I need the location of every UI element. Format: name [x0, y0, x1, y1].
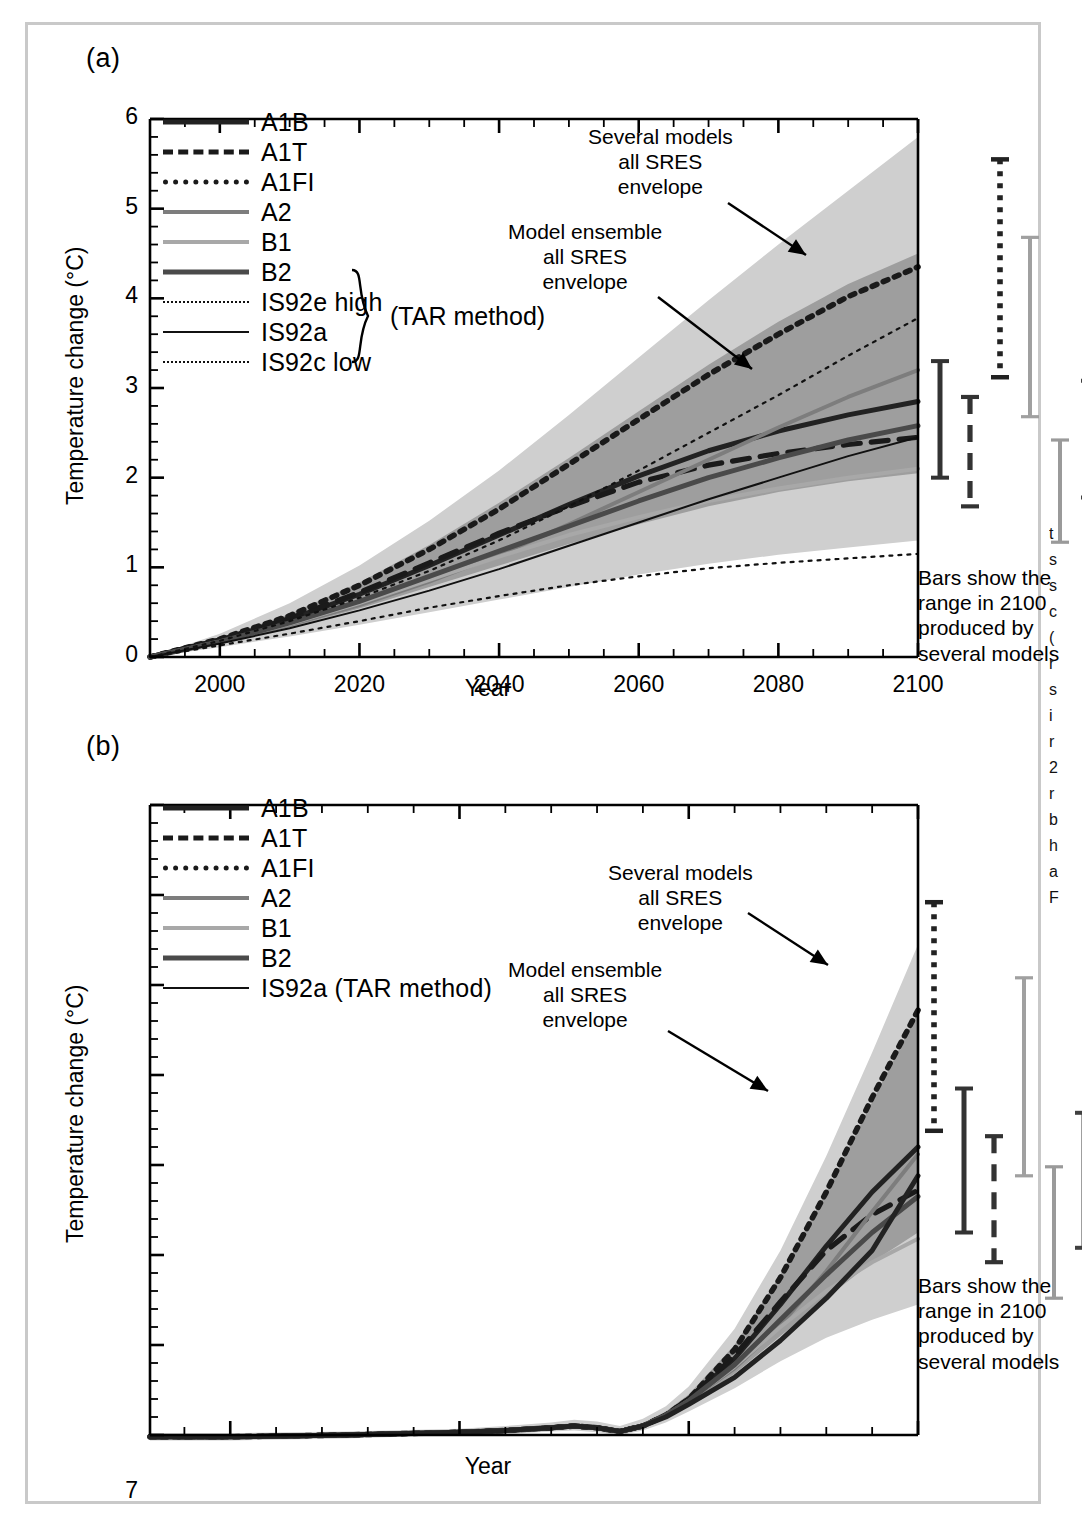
panel-b-annotation-model-ensemble: Model ensembleall SRESenvelope — [508, 958, 662, 1032]
legend-label: A1B — [261, 794, 309, 823]
bars-caption-line: produced by — [918, 615, 1059, 640]
side-text-line: t — [1049, 518, 1079, 544]
side-text-line — [1049, 492, 1079, 518]
annotation-line: all SRES — [508, 983, 662, 1008]
annotation-line: envelope — [588, 175, 733, 200]
legend-key-a1b — [163, 113, 249, 131]
x-tick-label: 2000 — [178, 671, 262, 698]
legend-key-b2 — [163, 263, 249, 281]
legend-key-b1 — [163, 919, 249, 937]
annotation-line: envelope — [508, 270, 662, 295]
panel-a-annotation-several-models: Several modelsall SRESenvelope — [588, 125, 733, 199]
x-tick-label: 2040 — [457, 671, 541, 698]
side-text-line: F — [1049, 882, 1079, 908]
panel-b-tag: (b) — [86, 731, 121, 762]
panel-a-legend-item: A1B — [163, 107, 383, 137]
side-text-line: s — [1049, 570, 1079, 596]
side-text-line: i — [1049, 700, 1079, 726]
bars-caption-line: range in 2100 — [918, 1298, 1059, 1323]
legend-label: IS92a (TAR method) — [261, 974, 492, 1003]
legend-key-a1fi — [163, 173, 249, 191]
panel-a-legend-item: A1FI — [163, 167, 383, 197]
side-text-line: a — [1049, 856, 1079, 882]
bars-caption-line: several models — [918, 641, 1059, 666]
legend-label: B2 — [261, 258, 292, 287]
side-text-line: r — [1049, 778, 1079, 804]
annotation-line: Several models — [608, 861, 753, 886]
bars-caption-line: Bars show the — [918, 565, 1059, 590]
annotation-line: envelope — [608, 911, 753, 936]
x-tick-label: 2060 — [597, 671, 681, 698]
panel-a-legend-item: B1 — [163, 227, 383, 257]
bars-caption-line: Bars show the — [918, 1273, 1059, 1298]
legend-label: A1B — [261, 108, 309, 137]
annotation-line: Model ensemble — [508, 958, 662, 983]
legend-label: B1 — [261, 914, 292, 943]
y-tick-label: 2 — [98, 462, 138, 489]
bars-caption-line: produced by — [918, 1323, 1059, 1348]
panel-a-tag: (a) — [86, 43, 121, 74]
side-text-line: ( — [1049, 622, 1079, 648]
side-text-line: s — [1049, 674, 1079, 700]
panel-b-legend-item: A1B — [163, 793, 492, 823]
legend-key-is92a — [163, 323, 249, 341]
y-tick-label: 0 — [98, 641, 138, 668]
panel-b-y-axis-label: Temperature change (°C) — [62, 985, 89, 1243]
x-tick-label: 2080 — [736, 671, 820, 698]
annotation-line: envelope — [508, 1008, 662, 1033]
panel-a-legend-item: A1T — [163, 137, 383, 167]
legend-key-a2 — [163, 889, 249, 907]
panel-b-x-axis-label: Year — [408, 1453, 568, 1480]
annotation-arrow-head — [810, 949, 828, 965]
annotation-line: all SRES — [588, 150, 733, 175]
annotation-arrow-line — [668, 1031, 768, 1091]
legend-label: A1T — [261, 824, 307, 853]
brace-icon — [350, 268, 384, 364]
panel-b-legend: A1BA1TA1FIA2B1B2IS92a (TAR method) — [163, 793, 492, 1003]
panel-a: (a) Temperature change (°C) Year A1BA1TA… — [28, 25, 1038, 725]
panel-b: (b) Temperature change (°C) Year A1BA1TA… — [28, 713, 1038, 1503]
panel-b-legend-item: A1FI — [163, 853, 492, 883]
legend-label: B1 — [261, 228, 292, 257]
side-text-line: h — [1049, 830, 1079, 856]
legend-label: A1FI — [261, 854, 315, 883]
y-tick-label: 6 — [98, 103, 138, 130]
legend-key-is92c-low — [163, 353, 249, 371]
side-text-column: tssc(rsir2rbhaF — [1049, 492, 1079, 908]
side-text-line: r — [1049, 726, 1079, 752]
annotation-line: all SRES — [608, 886, 753, 911]
panel-b-annotation-several-models: Several modelsall SRESenvelope — [608, 861, 753, 935]
annotation-line: Model ensemble — [508, 220, 662, 245]
legend-key-a1t — [163, 143, 249, 161]
bars-caption-line: several models — [918, 1349, 1059, 1374]
y-tick-label: 4 — [98, 282, 138, 309]
panel-b-legend-item: A2 — [163, 883, 492, 913]
panel-b-legend-item: A1T — [163, 823, 492, 853]
legend-key-a1fi — [163, 859, 249, 877]
legend-key-a1t — [163, 829, 249, 847]
y-tick-label: 5 — [98, 193, 138, 220]
side-text-line: s — [1049, 544, 1079, 570]
panel-a-tar-method-label: (TAR method) — [390, 302, 545, 331]
x-tick-label: 2100 — [876, 671, 960, 698]
annotation-line: all SRES — [508, 245, 662, 270]
side-text-line: c — [1049, 596, 1079, 622]
legend-label: A1T — [261, 138, 307, 167]
annotation-arrow-head — [750, 1076, 768, 1091]
legend-key-is92e-high — [163, 293, 249, 311]
annotation-line: Several models — [588, 125, 733, 150]
y-tick-label: 7 — [98, 1477, 138, 1504]
panel-b-legend-item: B2 — [163, 943, 492, 973]
panel-a-legend-brace — [350, 268, 384, 364]
legend-key-b1 — [163, 233, 249, 251]
bars-caption-line: range in 2100 — [918, 590, 1059, 615]
legend-key-a1b — [163, 799, 249, 817]
y-tick-label: 3 — [98, 372, 138, 399]
side-text-line: r — [1049, 648, 1079, 674]
legend-label: IS92a — [261, 318, 327, 347]
panel-a-annotation-model-ensemble: Model ensembleall SRESenvelope — [508, 220, 662, 294]
side-text-line: b — [1049, 804, 1079, 830]
legend-label: A1FI — [261, 168, 315, 197]
y-tick-label: 1 — [98, 551, 138, 578]
legend-key-is92a-tar-method- — [163, 979, 249, 997]
